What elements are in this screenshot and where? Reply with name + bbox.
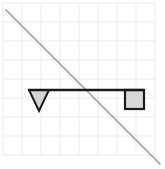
square-block: [125, 90, 144, 109]
diagram-svg: [0, 0, 165, 169]
figure-canvas: [0, 0, 165, 169]
